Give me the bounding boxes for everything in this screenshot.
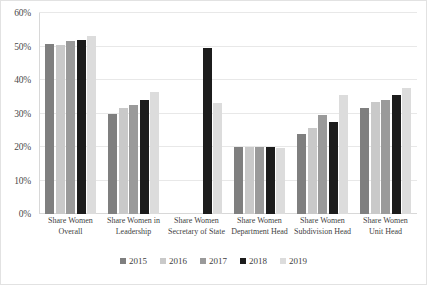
legend-item-2017[interactable]: 2017 xyxy=(200,256,227,266)
x-label-line: Share Women xyxy=(291,216,354,227)
x-axis: Share WomenOverallShare Women inLeadersh… xyxy=(39,216,417,250)
bar xyxy=(308,128,317,214)
x-label-line: Share Women xyxy=(228,216,291,227)
bar xyxy=(213,103,222,214)
bar xyxy=(129,105,138,214)
chart-legend: 20152016201720182019 xyxy=(1,256,426,266)
y-tick-label: 30% xyxy=(14,109,31,119)
bar xyxy=(66,41,75,214)
bars-layer xyxy=(39,13,417,214)
bar-group xyxy=(291,13,354,214)
y-tick-label: 10% xyxy=(14,176,31,186)
legend-swatch-icon xyxy=(280,258,286,264)
y-tick-label: 40% xyxy=(14,75,31,85)
bar xyxy=(276,148,285,214)
x-label-line: Subdivision Head xyxy=(291,227,354,238)
x-axis-label: Share WomenUnit Head xyxy=(354,216,417,237)
legend-item-2019[interactable]: 2019 xyxy=(280,256,307,266)
bar xyxy=(108,114,117,215)
x-axis-label: Share WomenOverall xyxy=(39,216,102,237)
bar xyxy=(255,147,264,214)
bar xyxy=(234,147,243,214)
bar xyxy=(245,147,254,214)
y-tick-label: 50% xyxy=(14,42,31,52)
x-label-line: Share Women in xyxy=(102,216,165,227)
x-label-line: Share Women xyxy=(165,216,228,227)
legend-label: 2015 xyxy=(129,256,147,266)
legend-item-2016[interactable]: 2016 xyxy=(160,256,187,266)
legend-label: 2018 xyxy=(249,256,267,266)
x-label-line: Leadership xyxy=(102,227,165,238)
x-label-line: Share Women xyxy=(354,216,417,227)
bar-chart: 60%50%40%30%20%10%0% Share WomenOverallS… xyxy=(0,0,427,285)
bar xyxy=(266,147,275,214)
legend-item-2018[interactable]: 2018 xyxy=(240,256,267,266)
bar xyxy=(402,88,411,214)
bar-group xyxy=(102,13,165,214)
bar xyxy=(150,92,159,214)
bar xyxy=(45,44,54,214)
bar xyxy=(360,108,369,214)
legend-label: 2016 xyxy=(169,256,187,266)
bar xyxy=(392,95,401,214)
x-axis-label: Share WomenDepartment Head xyxy=(228,216,291,237)
x-label-line: Share Women xyxy=(39,216,102,227)
legend-label: 2019 xyxy=(289,256,307,266)
bar xyxy=(371,102,380,214)
x-label-line: Unit Head xyxy=(354,227,417,238)
bar xyxy=(318,115,327,214)
bar-group xyxy=(39,13,102,214)
plot-area xyxy=(39,13,417,214)
bar-group xyxy=(354,13,417,214)
y-axis: 60%50%40%30%20%10%0% xyxy=(1,13,35,214)
x-label-line: Secretary of State xyxy=(165,227,228,238)
legend-label: 2017 xyxy=(209,256,227,266)
x-label-line: Overall xyxy=(39,227,102,238)
legend-swatch-icon xyxy=(160,258,166,264)
legend-swatch-icon xyxy=(240,258,246,264)
bar xyxy=(140,100,149,214)
y-tick-label: 60% xyxy=(14,8,31,18)
bar xyxy=(119,108,128,214)
bar xyxy=(77,40,86,214)
bar xyxy=(203,48,212,214)
y-tick-label: 0% xyxy=(19,209,31,219)
x-axis-label: Share Women inLeadership xyxy=(102,216,165,237)
x-axis-label: Share WomenSecretary of State xyxy=(165,216,228,237)
legend-swatch-icon xyxy=(200,258,206,264)
y-tick-label: 20% xyxy=(14,142,31,152)
legend-swatch-icon xyxy=(120,258,126,264)
bar xyxy=(329,122,338,214)
bar xyxy=(87,36,96,214)
bar xyxy=(297,134,306,214)
bar xyxy=(381,100,390,214)
bar xyxy=(56,45,65,214)
bar xyxy=(339,95,348,214)
x-label-line: Department Head xyxy=(228,227,291,238)
bar-group xyxy=(228,13,291,214)
x-axis-label: Share WomenSubdivision Head xyxy=(291,216,354,237)
bar-group xyxy=(165,13,228,214)
legend-item-2015[interactable]: 2015 xyxy=(120,256,147,266)
